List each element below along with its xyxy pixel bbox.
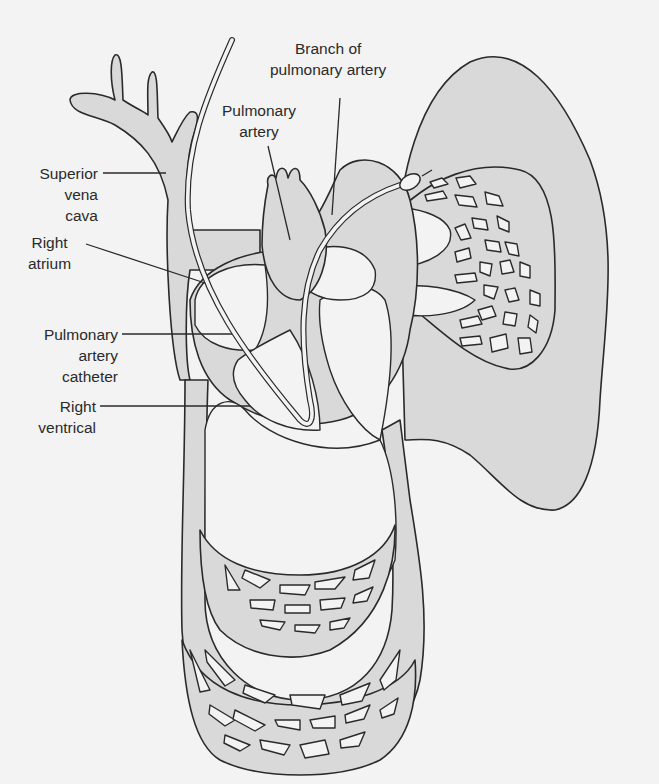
label-pulmonary-artery-catheter: Pulmonary artery catheter — [20, 324, 118, 387]
pulmonary-trunk — [262, 168, 326, 300]
label-pulmonary-artery: Pulmonary artery — [222, 100, 296, 142]
label-right-ventrical: Right ventrical — [20, 396, 96, 438]
anatomy-illustration — [0, 0, 659, 784]
pulmonary-artery-catheter-diagram: Branch of pulmonary artery Pulmonary art… — [0, 0, 659, 784]
label-branch-of-pulmonary-artery: Branch of pulmonary artery — [270, 38, 386, 80]
label-right-atrium: Right atrium — [28, 232, 71, 274]
label-superior-vena-cava: Superior vena cava — [28, 163, 98, 226]
